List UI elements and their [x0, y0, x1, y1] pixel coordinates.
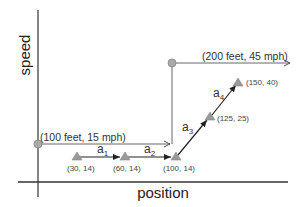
threshold-label-2: (200 feet, 45 mph) [202, 50, 288, 62]
x-axis-title: position [137, 184, 189, 201]
speed-position-diagram: (100 feet, 15 mph) (200 feet, 45 mph) (3… [0, 0, 305, 207]
point-label-4: (125, 25) [217, 114, 249, 123]
point-marker-2 [120, 152, 130, 160]
segment-label-a4: a4 [213, 86, 225, 102]
threshold-label-1: (100 feet, 15 mph) [40, 131, 126, 143]
point-label-1: (30, 14) [67, 164, 95, 173]
segment-label-a3: a3 [182, 120, 194, 136]
point-marker-1 [72, 152, 82, 160]
point-label-5: (150, 40) [246, 78, 278, 87]
point-label-3: (100, 14) [163, 164, 195, 173]
point-marker-5 [233, 78, 243, 86]
threshold-start-marker-2 [168, 59, 176, 67]
point-label-2: (60, 14) [113, 164, 141, 173]
y-axis-title: speed [16, 35, 33, 76]
